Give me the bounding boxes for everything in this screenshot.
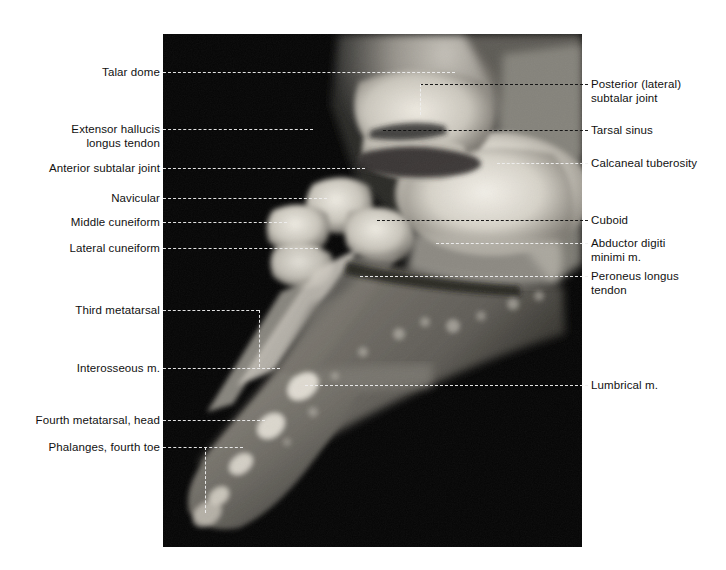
leader-line-cuboid <box>377 220 588 221</box>
label-lateral-cuneiform: Lateral cuneiform <box>0 241 160 255</box>
leader-line-talar-dome <box>163 72 455 73</box>
leader-line-lumbrical-m <box>305 385 588 386</box>
label-navicular: Navicular <box>0 191 160 205</box>
leader-line-vertical-third-metatarsal <box>259 310 260 367</box>
leader-line-vertical-posterior-lateral-subtalar-joint <box>420 84 421 115</box>
scan-noise-overlay <box>163 34 582 547</box>
leader-line-lateral-cuneiform <box>163 248 318 249</box>
label-talar-dome: Talar dome <box>0 65 160 79</box>
leader-line-tarsal-sinus <box>383 130 588 131</box>
leader-line-interosseous-m <box>163 368 280 369</box>
mri-scan-image <box>163 34 582 547</box>
leader-line-phalanges-fourth-toe <box>163 447 243 448</box>
label-third-metatarsal: Third metatarsal <box>0 303 160 317</box>
label-posterior-lateral-subtalar-joint: Posterior (lateral) subtalar joint <box>591 77 726 105</box>
label-abductor-digiti-minimi-m: Abductor digiti minimi m. <box>591 236 726 264</box>
leader-line-vertical-phalanges-fourth-toe <box>205 447 206 513</box>
label-cuboid: Cuboid <box>591 213 726 227</box>
leader-line-abductor-digiti-minimi-m <box>436 243 588 244</box>
leader-line-third-metatarsal <box>163 310 259 311</box>
leader-line-calcaneal-tuberosity <box>497 163 588 164</box>
leader-line-peroneus-longus-tendon <box>360 276 588 277</box>
label-phalanges-fourth-toe: Phalanges, fourth toe <box>0 440 160 454</box>
label-calcaneal-tuberosity: Calcaneal tuberosity <box>591 156 726 170</box>
label-interosseous-m: Interosseous m. <box>0 361 160 375</box>
label-peroneus-longus-tendon: Peroneus longus tendon <box>591 269 726 297</box>
figure-root: Talar domeExtensor hallucis longus tendo… <box>0 0 726 570</box>
leader-line-navicular <box>163 198 327 199</box>
label-extensor-hallucis-longus-tendon: Extensor hallucis longus tendon <box>0 122 160 150</box>
label-tarsal-sinus: Tarsal sinus <box>591 123 726 137</box>
label-lumbrical-m: Lumbrical m. <box>591 378 726 392</box>
leader-line-middle-cuneiform <box>163 222 287 223</box>
leader-line-fourth-metatarsal-head <box>163 420 265 421</box>
label-fourth-metatarsal-head: Fourth metatarsal, head <box>0 413 160 427</box>
leader-line-extensor-hallucis-longus-tendon <box>163 129 313 130</box>
label-anterior-subtalar-joint: Anterior subtalar joint <box>0 161 160 175</box>
mri-scan-svg <box>163 34 582 547</box>
leader-line-anterior-subtalar-joint <box>163 168 365 169</box>
leader-line-posterior-lateral-subtalar-joint <box>420 84 588 85</box>
label-middle-cuneiform: Middle cuneiform <box>0 215 160 229</box>
